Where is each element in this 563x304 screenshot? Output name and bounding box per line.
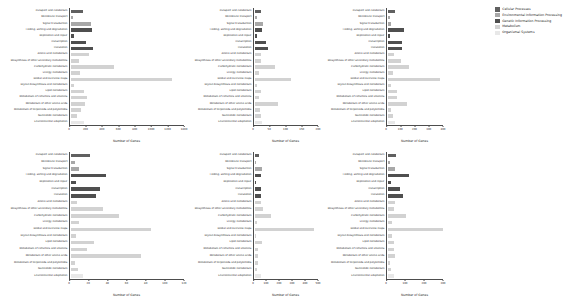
y-axis-tick-label: Metabolism of cofactors and vitamins bbox=[6, 95, 69, 100]
x-axis-tick-label: 100 bbox=[403, 283, 408, 286]
y-axis-tick-mark bbox=[386, 54, 387, 55]
y-axis-tick-mark bbox=[253, 242, 254, 243]
x-axis-tick-mark bbox=[414, 126, 415, 128]
y-axis-tick-label: Folding, sorting and degradation bbox=[6, 27, 69, 32]
y-axis-tick-mark bbox=[253, 67, 254, 68]
bar bbox=[71, 53, 89, 57]
bar bbox=[71, 96, 87, 100]
y-axis-tick-label: Nucleotide metabolism bbox=[323, 114, 386, 119]
y-axis-category-labels: Transport and catabolismMembrane transpo… bbox=[323, 8, 386, 126]
y-axis-tick-mark bbox=[69, 24, 70, 25]
bar bbox=[388, 201, 394, 205]
bar-row bbox=[70, 187, 184, 192]
bar-row bbox=[70, 83, 184, 88]
bar-row bbox=[70, 15, 184, 20]
bar-row bbox=[70, 207, 184, 212]
y-axis-tick-label: Energy metabolism bbox=[6, 220, 69, 225]
y-axis-tick-mark bbox=[386, 67, 387, 68]
bars-container bbox=[386, 8, 443, 126]
bar-row bbox=[254, 83, 318, 88]
x-axis-tick-mark bbox=[318, 126, 319, 128]
y-axis-tick-mark bbox=[386, 229, 387, 230]
y-axis-tick-label: Membrane transport bbox=[190, 160, 253, 165]
bar bbox=[388, 65, 409, 69]
x-axis-tick-label: 0 bbox=[385, 283, 387, 286]
bar bbox=[71, 268, 78, 272]
y-axis-tick-label: Amino acid metabolism bbox=[6, 200, 69, 205]
bar-rows bbox=[254, 152, 318, 280]
y-axis-tick-label: Metabolism of cofactors and vitamins bbox=[6, 247, 69, 252]
bar bbox=[388, 154, 396, 158]
x-axis-tick-label: 20 bbox=[87, 283, 90, 286]
bar bbox=[255, 22, 263, 26]
x-axis-tick-label: 200 bbox=[422, 283, 427, 286]
bar bbox=[71, 10, 83, 14]
y-axis-tick-mark bbox=[253, 256, 254, 257]
y-axis-tick-mark bbox=[386, 249, 387, 250]
x-axis-tick-mark bbox=[88, 280, 89, 282]
bar bbox=[255, 41, 265, 45]
x-axis-tick-mark bbox=[165, 280, 166, 282]
y-axis-tick-mark bbox=[69, 189, 70, 190]
x-axis-tick-mark bbox=[184, 280, 185, 282]
x-axis-tick-mark bbox=[386, 280, 387, 282]
bar-row bbox=[70, 213, 184, 218]
x-axis-tick-label: 1200 bbox=[164, 129, 171, 132]
bar-row bbox=[254, 15, 318, 20]
y-axis-tick-mark bbox=[253, 263, 254, 264]
x-axis-tick-label: 0 bbox=[68, 283, 70, 286]
legend-item-label: Genetic Information Processing bbox=[502, 20, 551, 23]
bar-row bbox=[70, 101, 184, 106]
y-axis-tick-label: Lipid metabolism bbox=[6, 240, 69, 245]
bar-row bbox=[387, 9, 443, 14]
bar bbox=[255, 228, 314, 232]
y-axis-tick-mark bbox=[386, 242, 387, 243]
bar bbox=[255, 167, 262, 171]
y-axis-tick-mark bbox=[386, 155, 387, 156]
bar-row bbox=[70, 173, 184, 178]
bar bbox=[71, 121, 83, 125]
x-axis-ticks: 0100200300400 bbox=[386, 126, 443, 135]
x-axis-tick-label: 0 bbox=[68, 129, 70, 132]
bar-row bbox=[387, 227, 443, 232]
y-axis-tick-mark bbox=[69, 79, 70, 80]
bar bbox=[388, 254, 394, 258]
bar bbox=[71, 59, 79, 63]
y-axis-tick-mark bbox=[386, 256, 387, 257]
y-axis-tick-mark bbox=[253, 162, 254, 163]
plot-area: Transport and catabolismMembrane transpo… bbox=[190, 152, 320, 298]
x-axis-tick-label: 800 bbox=[132, 129, 137, 132]
y-axis-tick-mark bbox=[69, 162, 70, 163]
bar-row bbox=[70, 108, 184, 113]
bar-row bbox=[254, 21, 318, 26]
bar bbox=[255, 274, 261, 278]
y-axis-tick-label: Biosynthesis of other secondary metaboli… bbox=[323, 58, 386, 63]
bar-row bbox=[70, 114, 184, 119]
bar-row bbox=[70, 227, 184, 232]
y-axis-tick-mark bbox=[253, 104, 254, 105]
bar-row bbox=[70, 166, 184, 171]
bar bbox=[388, 10, 395, 14]
bar bbox=[388, 221, 391, 225]
y-axis-tick-mark bbox=[253, 30, 254, 31]
bar bbox=[71, 167, 79, 171]
y-axis-tick-mark bbox=[253, 209, 254, 210]
plot-area: Transport and catabolismMembrane transpo… bbox=[6, 8, 186, 144]
bar-row bbox=[387, 114, 443, 119]
bar-row bbox=[387, 58, 443, 63]
legend-item-label: Environmental Information Processing bbox=[502, 14, 562, 17]
bar-rows bbox=[387, 152, 443, 280]
y-axis-tick-mark bbox=[69, 155, 70, 156]
bar bbox=[71, 234, 76, 238]
chart-panel-top-left: Transport and catabolismMembrane transpo… bbox=[6, 8, 186, 144]
y-axis-tick-mark bbox=[253, 216, 254, 217]
chart-panel-top-center: Transport and catabolismMembrane transpo… bbox=[190, 8, 320, 144]
x-axis-tick-mark bbox=[127, 280, 128, 282]
bar-rows bbox=[70, 8, 184, 126]
y-axis-category-labels: Transport and catabolismMembrane transpo… bbox=[190, 152, 253, 280]
bar bbox=[255, 268, 257, 272]
bars-container bbox=[69, 8, 184, 126]
y-axis-tick-mark bbox=[69, 67, 70, 68]
legend: Cellular ProcessesEnvironmental Informat… bbox=[495, 7, 562, 35]
y-axis-category-labels: Transport and catabolismMembrane transpo… bbox=[6, 152, 69, 280]
